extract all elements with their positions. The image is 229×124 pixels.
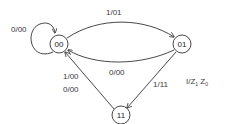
state-01-label: 01	[178, 40, 187, 49]
label-11-to-00-b: 0/00	[63, 85, 79, 94]
state-00: 00	[50, 35, 68, 53]
transition-01-to-00	[68, 50, 174, 62]
legend-io-format: I/Z1 Z0	[186, 77, 208, 87]
state-00-label: 00	[55, 40, 64, 49]
state-diagram: 00 01 11 0/00 1/01 0/00 1/11 1/00 0/00 I…	[0, 0, 229, 124]
label-11-to-00-a: 1/00	[63, 72, 79, 81]
transition-01-to-11	[127, 52, 176, 108]
label-00-self: 0/00	[11, 25, 27, 34]
state-01: 01	[173, 35, 191, 53]
label-00-to-01: 1/01	[106, 8, 122, 17]
transition-00-to-01	[67, 22, 174, 38]
state-11: 11	[112, 106, 130, 124]
label-01-to-11: 1/11	[153, 80, 169, 89]
state-11-label: 11	[117, 111, 126, 120]
label-01-to-00: 0/00	[109, 68, 125, 77]
